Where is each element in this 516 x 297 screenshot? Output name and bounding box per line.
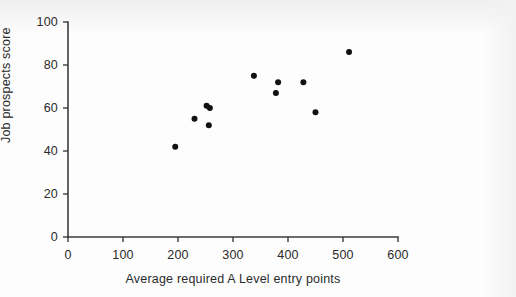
x-axis-title: Average required A Level entry points — [126, 272, 341, 286]
y-tick-label: 20 — [18, 187, 58, 201]
x-tick-label: 400 — [277, 248, 298, 262]
data-point — [300, 79, 306, 85]
data-point — [275, 79, 281, 85]
y-axis-title: Job prospects score — [0, 27, 13, 143]
data-point — [251, 73, 257, 79]
data-point — [273, 90, 279, 96]
y-tick-label: 60 — [18, 101, 58, 115]
data-point — [206, 122, 212, 128]
data-point — [172, 144, 178, 150]
x-tick-label: 500 — [332, 248, 353, 262]
data-point — [207, 105, 213, 111]
data-point — [192, 116, 198, 122]
plot-canvas — [0, 0, 516, 297]
x-tick-label: 200 — [167, 248, 188, 262]
data-point — [313, 109, 319, 115]
x-tick-label: 600 — [387, 248, 408, 262]
scatter-plot-figure: 020406080100 0100200300400500600 Job pro… — [0, 0, 516, 297]
y-tick-label: 40 — [18, 144, 58, 158]
y-tick-label: 80 — [18, 58, 58, 72]
x-tick-label: 100 — [112, 248, 133, 262]
data-point — [346, 49, 352, 55]
y-tick-label: 0 — [18, 230, 58, 244]
data-points — [172, 49, 352, 150]
x-tick-label: 0 — [64, 248, 71, 262]
y-tick-label: 100 — [18, 15, 58, 29]
x-tick-label: 300 — [222, 248, 243, 262]
